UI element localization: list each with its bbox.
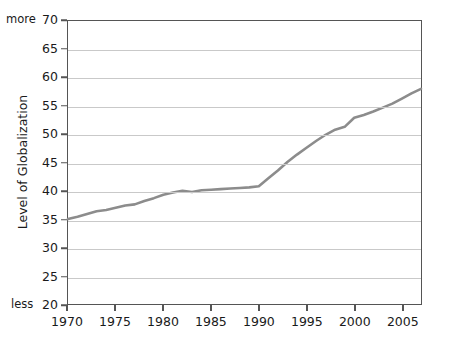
y-axis-title: Level of Globalization: [15, 95, 30, 230]
x-tick-mark-1990: [258, 305, 260, 311]
y-tick-label-25: 25: [24, 270, 58, 283]
gridline-y-40: [68, 192, 421, 193]
gridline-y-60: [68, 78, 421, 79]
data-series-line: [68, 21, 421, 304]
x-tick-mark-1975: [114, 305, 116, 311]
x-tick-mark-1970: [66, 305, 68, 311]
gridline-y-50: [68, 135, 421, 136]
gridline-y-35: [68, 221, 421, 222]
gridline-y-45: [68, 164, 421, 165]
x-tick-mark-2005: [402, 305, 404, 311]
y-tick-label-65: 65: [24, 42, 58, 55]
y-tick-label-30: 30: [24, 242, 58, 255]
y-axis-high-label: more: [6, 14, 36, 26]
y-tick-label-60: 60: [24, 71, 58, 84]
gridline-y-25: [68, 278, 421, 279]
gridline-y-30: [68, 249, 421, 250]
x-tick-label-2005: 2005: [373, 316, 433, 329]
x-tick-mark-2000: [354, 305, 356, 311]
x-axis: 19701975198019851990199520002005: [0, 305, 453, 345]
x-tick-mark-1985: [210, 305, 212, 311]
gridline-y-65: [68, 50, 421, 51]
x-tick-mark-1980: [162, 305, 164, 311]
gridline-y-55: [68, 107, 421, 108]
plot-area: [67, 20, 422, 305]
y-axis: 2025303540455055606570: [0, 0, 67, 345]
x-tick-mark-1995: [306, 305, 308, 311]
globalization-line-chart: 2025303540455055606570 Level of Globaliz…: [0, 0, 453, 345]
